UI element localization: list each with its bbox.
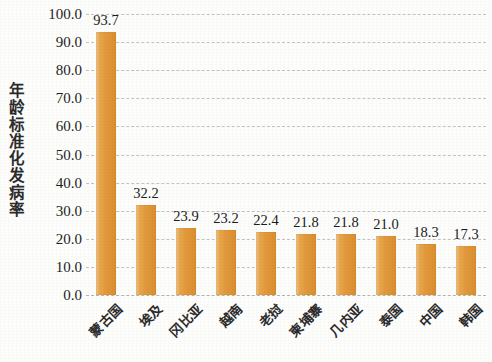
y-axis-tick-labels: 100.090.080.070.060.050.040.030.020.010.… [30, 0, 82, 362]
y-tick-label: 30.0 [30, 202, 82, 219]
y-tick-label: 40.0 [30, 174, 82, 191]
bar-value-label: 93.7 [93, 12, 118, 29]
bar [96, 32, 116, 295]
bar [216, 230, 236, 295]
bar-value-label: 32.2 [133, 185, 158, 202]
bar [456, 246, 476, 295]
x-category-label: 柬埔寨 [285, 299, 327, 341]
bar-value-label: 17.3 [453, 226, 478, 243]
x-category-label: 韩国 [454, 299, 486, 331]
bar [256, 232, 276, 295]
bar [176, 228, 196, 295]
x-category-label: 中国 [414, 299, 446, 331]
x-category-label: 越南 [214, 299, 246, 331]
y-tick-label: 90.0 [30, 34, 82, 51]
x-category-label: 蒙古国 [85, 299, 127, 341]
x-category-label: 几内亚 [325, 299, 367, 341]
bar-chart: 年龄标准化发病率 100.090.080.070.060.050.040.030… [0, 0, 492, 362]
x-category-label: 埃及 [134, 299, 166, 331]
bar-value-label: 18.3 [413, 224, 438, 241]
y-tick-label: 70.0 [30, 90, 82, 107]
bar [416, 244, 436, 295]
x-category-label: 泰国 [374, 299, 406, 331]
y-axis-title: 年龄标准化发病率 [0, 0, 30, 300]
x-axis-category-labels: 蒙古国埃及冈比亚越南老挝柬埔寨几内亚泰国中国韩国 [86, 295, 486, 362]
y-tick-label: 20.0 [30, 230, 82, 247]
bar-value-label: 23.9 [173, 208, 198, 225]
y-tick-label: 10.0 [30, 258, 82, 275]
bar [136, 205, 156, 295]
bar-value-label: 21.8 [293, 214, 318, 231]
bar [296, 234, 316, 295]
bar [376, 236, 396, 295]
y-tick-label: 60.0 [30, 118, 82, 135]
bar [336, 234, 356, 295]
y-axis-title-text: 年龄标准化发病率 [4, 82, 26, 218]
y-tick-label: 100.0 [30, 6, 82, 23]
bar-value-label: 23.2 [213, 210, 238, 227]
y-tick-label: 0.0 [30, 287, 82, 304]
bar-value-label: 22.4 [253, 212, 278, 229]
x-category-label: 老挝 [254, 299, 286, 331]
x-category-label: 冈比亚 [165, 299, 207, 341]
y-tick-label: 80.0 [30, 62, 82, 79]
bar-value-label: 21.0 [373, 216, 398, 233]
y-tick-label: 50.0 [30, 146, 82, 163]
bar-value-label: 21.8 [333, 214, 358, 231]
bars-layer: 93.732.223.923.222.421.821.821.018.317.3 [86, 14, 486, 295]
